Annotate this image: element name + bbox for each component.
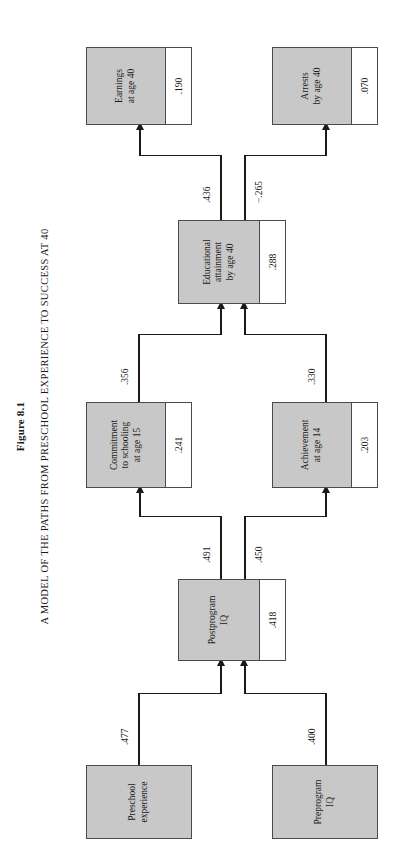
edge-education-to-earnings-coefficient: .436 <box>202 184 212 205</box>
edge-preiq-to-postiq-segment-v <box>244 693 326 695</box>
edge-postiq-to-commitment-segment-h <box>220 516 222 579</box>
edge-achievement-to-education-coefficient: .330 <box>307 366 317 387</box>
node-arrests-value: .070 <box>351 48 377 124</box>
path-diagram: Preschool experience Preprogram IQ .477 … <box>58 0 407 853</box>
edge-preschool-to-postiq-coefficient: .477 <box>120 726 130 747</box>
edge-commitment-to-education-segment-h2 <box>220 306 222 336</box>
node-arrests-label: Arrests by age 40 <box>273 48 351 124</box>
node-educational-attainment[interactable]: Educational attainment by age 40 .288 <box>178 220 286 304</box>
edge-postiq-to-commitment-segment-v <box>139 516 221 518</box>
node-postprogram-iq-label: Postprogram IQ <box>179 580 259 660</box>
edge-education-to-arrests-segment-h <box>244 155 246 220</box>
node-achievement-label: Achievement at age 14 <box>273 403 351 487</box>
edge-postiq-to-commitment-coefficient: .491 <box>202 544 212 565</box>
edge-education-to-arrests-coefficient: −.265 <box>254 179 264 205</box>
edge-preschool-to-postiq-segment-v <box>138 693 221 695</box>
node-earnings-label: Earnings at age 40 <box>87 48 165 124</box>
edge-education-to-earnings-segment-h <box>220 155 222 220</box>
edge-preschool-to-postiq-segment-h2 <box>220 663 222 695</box>
node-preschool-experience[interactable]: Preschool experience <box>86 765 192 839</box>
node-preprogram-iq-label: Preprogram IQ <box>273 766 377 838</box>
edge-postiq-to-achievement-segment-h2 <box>325 490 327 518</box>
edge-preiq-to-postiq-coefficient: .400 <box>307 726 317 747</box>
edge-preschool-to-postiq-segment-h <box>138 693 140 765</box>
figure-rotated-frame: Figure 8.1 A MODEL OF THE PATHS FROM PRE… <box>0 0 407 853</box>
node-achievement-value: .203 <box>351 403 377 487</box>
edge-achievement-to-education-segment-v <box>244 334 326 336</box>
edge-postiq-to-achievement-segment-v <box>244 516 326 518</box>
figure-caption: Figure 8.1 A MODEL OF THE PATHS FROM PRE… <box>0 0 50 853</box>
edge-achievement-to-education-segment-h2 <box>244 306 246 336</box>
edge-education-to-earnings-segment-h2 <box>139 127 141 157</box>
figure-title: A MODEL OF THE PATHS FROM PRESCHOOL EXPE… <box>39 0 50 853</box>
figure-number: Figure 8.1 <box>14 0 26 853</box>
node-commitment-to-schooling[interactable]: Commitment to schooling at age 15 .241 <box>86 402 192 488</box>
edge-commitment-to-education-coefficient: .356 <box>120 366 130 387</box>
edge-commitment-to-education-segment-h <box>138 334 140 402</box>
node-educational-attainment-value: .288 <box>259 221 285 303</box>
node-earnings[interactable]: Earnings at age 40 .190 <box>86 47 192 125</box>
node-commitment-to-schooling-label: Commitment to schooling at age 15 <box>87 403 165 487</box>
edge-postiq-to-commitment-segment-h2 <box>139 490 141 518</box>
node-earnings-value: .190 <box>165 48 191 124</box>
edge-postiq-to-achievement-coefficient: .450 <box>254 544 264 565</box>
edge-postiq-to-achievement-segment-h <box>244 516 246 579</box>
edge-commitment-to-education-segment-v <box>138 334 221 336</box>
node-educational-attainment-label: Educational attainment by age 40 <box>179 221 259 303</box>
edge-education-to-earnings-segment-v <box>139 155 221 157</box>
node-preschool-experience-label: Preschool experience <box>87 766 191 838</box>
node-postprogram-iq-value: .418 <box>259 580 285 660</box>
node-achievement[interactable]: Achievement at age 14 .203 <box>272 402 378 488</box>
edge-education-to-arrests-segment-v <box>244 155 326 157</box>
edge-preiq-to-postiq-segment-h2 <box>244 663 246 695</box>
node-postprogram-iq[interactable]: Postprogram IQ .418 <box>178 579 286 661</box>
edge-education-to-arrests-segment-h2 <box>325 127 327 157</box>
edge-preiq-to-postiq-segment-h <box>325 693 327 765</box>
node-arrests[interactable]: Arrests by age 40 .070 <box>272 47 378 125</box>
node-commitment-to-schooling-value: .241 <box>165 403 191 487</box>
node-preprogram-iq[interactable]: Preprogram IQ <box>272 765 378 839</box>
edge-achievement-to-education-segment-h <box>325 334 327 402</box>
